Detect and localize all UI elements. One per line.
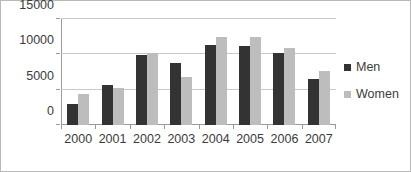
x-axis-tick-mark bbox=[61, 125, 62, 129]
y-axis-tick-mark bbox=[56, 89, 60, 90]
bar-group bbox=[302, 19, 336, 125]
bar-group bbox=[267, 19, 301, 125]
bar-group bbox=[199, 19, 233, 125]
x-axis-tick-mark bbox=[164, 125, 165, 129]
bar-group bbox=[130, 19, 164, 125]
x-axis-tick-mark bbox=[267, 125, 268, 129]
x-axis-label-2006: 2006 bbox=[267, 132, 301, 146]
chart-container: 050001000015000 200020012002200320042005… bbox=[0, 0, 411, 172]
x-axis-label-2003: 2003 bbox=[164, 132, 198, 146]
bar-men-2000 bbox=[67, 104, 78, 125]
bar-men-2006 bbox=[273, 53, 284, 125]
bar-series-group bbox=[61, 19, 336, 125]
bar-men-2007 bbox=[308, 79, 319, 125]
legend-label-women: Women bbox=[356, 87, 399, 101]
bar-women-2006 bbox=[284, 48, 295, 125]
x-axis-tick-mark bbox=[199, 125, 200, 129]
legend-swatch-icon-men bbox=[344, 64, 351, 71]
legend-entry-women: Women bbox=[344, 87, 399, 101]
bar-group bbox=[233, 19, 267, 125]
x-axis-label-2000: 2000 bbox=[61, 132, 95, 146]
chart-legend: MenWomen bbox=[344, 60, 399, 101]
bar-men-2003 bbox=[170, 63, 181, 125]
bar-men-2001 bbox=[102, 85, 113, 125]
bar-women-2000 bbox=[78, 94, 89, 125]
y-axis-tick-label: 0 bbox=[47, 104, 54, 118]
bar-men-2004 bbox=[205, 45, 216, 125]
y-axis-tick-label: 5000 bbox=[26, 69, 54, 83]
legend-entry-men: Men bbox=[344, 60, 399, 74]
bar-women-2002 bbox=[147, 53, 158, 125]
bar-women-2007 bbox=[319, 71, 330, 125]
y-axis-tick-mark bbox=[56, 18, 60, 19]
x-axis-tick-mark bbox=[233, 125, 234, 129]
x-axis-label-2002: 2002 bbox=[130, 132, 164, 146]
y-axis-tick-mark bbox=[56, 53, 60, 54]
x-axis-category-labels: 20002001200220032004200520062007 bbox=[61, 132, 336, 146]
bar-men-2005 bbox=[239, 46, 250, 125]
x-axis-tick-mark bbox=[302, 125, 303, 129]
x-axis-label-2007: 2007 bbox=[302, 132, 336, 146]
y-axis-tick-label: 15000 bbox=[19, 0, 54, 12]
legend-label-men: Men bbox=[356, 60, 380, 74]
x-axis-tick-mark bbox=[335, 125, 336, 129]
y-axis-tick-mark bbox=[56, 124, 60, 125]
bar-women-2004 bbox=[216, 37, 227, 125]
bar-women-2003 bbox=[181, 77, 192, 125]
plot-area: 050001000015000 bbox=[61, 19, 336, 125]
x-axis-label-2001: 2001 bbox=[95, 132, 129, 146]
x-axis-label-2005: 2005 bbox=[233, 132, 267, 146]
x-axis-tick-mark bbox=[95, 125, 96, 129]
bar-women-2005 bbox=[250, 37, 261, 125]
y-axis-tick-label: 10000 bbox=[19, 33, 54, 47]
bar-group bbox=[95, 19, 129, 125]
x-axis-label-2004: 2004 bbox=[199, 132, 233, 146]
legend-swatch-icon-women bbox=[344, 91, 351, 98]
bar-women-2001 bbox=[113, 88, 124, 125]
bar-group bbox=[61, 19, 95, 125]
bar-men-2002 bbox=[136, 55, 147, 125]
x-axis-tick-mark bbox=[130, 125, 131, 129]
bar-group bbox=[164, 19, 198, 125]
